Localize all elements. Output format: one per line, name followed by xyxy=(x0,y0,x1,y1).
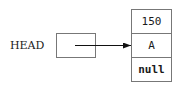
linked-list-diagram: HEAD 150 A null xyxy=(0,0,177,87)
node-data-text: A xyxy=(148,39,155,52)
head-label: HEAD xyxy=(10,39,45,52)
node-value-text: 150 xyxy=(142,15,162,28)
node-next-text: null xyxy=(138,63,165,76)
list-node: 150 A null xyxy=(132,10,172,82)
